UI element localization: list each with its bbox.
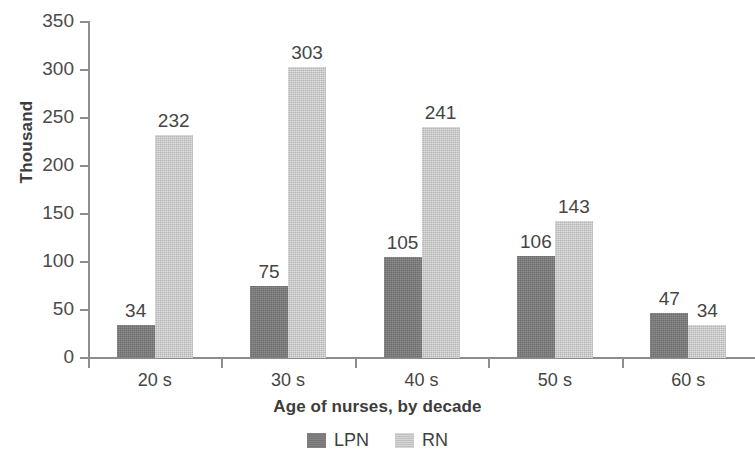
legend-swatch-icon (395, 433, 414, 448)
y-tick-mark (80, 69, 88, 71)
legend-label: RN (422, 430, 448, 451)
y-tick-mark (80, 357, 88, 359)
x-tick-label: 50 s (488, 370, 621, 391)
y-tick-mark (80, 213, 88, 215)
x-tick-mark (88, 359, 90, 368)
plot-area: 34232753031052411061434734 (88, 22, 755, 358)
legend-item-rn[interactable]: RN (395, 430, 448, 451)
y-tick-label: 350 (14, 10, 74, 32)
x-tick-label: 20 s (88, 370, 221, 391)
bar-value-label: 241 (412, 102, 470, 124)
bar-rn-50s (555, 221, 593, 358)
bar-value-label: 232 (145, 110, 203, 132)
x-tick-mark (622, 359, 624, 368)
bar-value-label: 143 (545, 196, 603, 218)
y-tick-mark (80, 21, 88, 23)
bar-lpn-40s (384, 257, 422, 358)
bar-lpn-30s (250, 286, 288, 358)
y-tick-mark (80, 309, 88, 311)
legend-label: LPN (334, 430, 369, 451)
x-tick-label: 30 s (221, 370, 354, 391)
x-axis-title: Age of nurses, by decade (0, 397, 755, 417)
y-tick-label: 150 (14, 202, 74, 224)
y-tick-label: 250 (14, 106, 74, 128)
y-tick-label: 300 (14, 58, 74, 80)
bar-chart: Thousand 050100150200250300350 20 s30 s4… (0, 0, 755, 456)
bar-value-label: 303 (278, 42, 336, 64)
bar-rn-60s (688, 325, 726, 358)
bar-rn-40s (422, 127, 460, 358)
x-tick-label: 40 s (355, 370, 488, 391)
bar-lpn-20s (117, 325, 155, 358)
legend-swatch-icon (307, 433, 326, 448)
bar-rn-20s (155, 135, 193, 358)
y-axis-title: Thousand (17, 67, 37, 217)
y-tick-mark (80, 165, 88, 167)
x-tick-mark (221, 359, 223, 368)
x-tick-mark (355, 359, 357, 368)
bar-lpn-50s (517, 256, 555, 358)
legend-item-lpn[interactable]: LPN (307, 430, 369, 451)
bar-value-label: 34 (678, 300, 736, 322)
x-tick-mark (488, 359, 490, 368)
bar-rn-30s (288, 67, 326, 358)
y-tick-label: 50 (14, 298, 74, 320)
y-tick-label: 0 (14, 346, 74, 368)
y-tick-mark (80, 117, 88, 119)
y-tick-label: 100 (14, 250, 74, 272)
y-tick-mark (80, 261, 88, 263)
x-tick-label: 60 s (622, 370, 755, 391)
y-tick-label: 200 (14, 154, 74, 176)
chart-legend: LPNRN (0, 430, 755, 451)
